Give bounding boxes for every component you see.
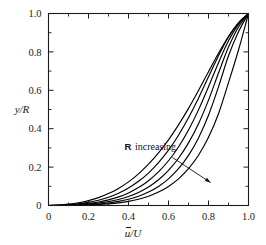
x-tick-label: 0.6 [162, 211, 175, 222]
velocity-profile-chart: 00.20.40.60.81.0 00.20.40.60.81.0 u/U y/… [0, 0, 266, 245]
curve-series-2 [49, 14, 249, 206]
x-tick-label: 0 [46, 211, 51, 222]
x-axis-tick-labels: 00.20.40.60.81.0 [46, 211, 255, 222]
curve-series-group [49, 14, 249, 206]
y-tick-label: 0.6 [28, 85, 41, 96]
x-tick-label: 0.2 [82, 211, 95, 222]
x-tick-label: 0.8 [202, 211, 215, 222]
y-tick-label: 0.8 [28, 47, 41, 58]
x-axis-label: u/U [125, 227, 143, 239]
figure-container: 00.20.40.60.81.0 00.20.40.60.81.0 u/U y/… [0, 0, 266, 245]
curve-series-1 [49, 14, 249, 206]
x-tick-label: 0.4 [122, 211, 136, 222]
y-tick-label: 0.2 [28, 162, 41, 173]
y-tick-label: 1.0 [28, 8, 41, 19]
curve-series-4 [49, 14, 249, 206]
curve-series-0 [49, 14, 249, 206]
y-tick-label: 0.4 [28, 123, 42, 134]
annotation-label-increasing: increasing [135, 141, 176, 152]
curve-series-5 [49, 14, 249, 206]
annotation-arrow-head [205, 178, 211, 183]
y-axis-tick-labels: 00.20.40.60.81.0 [28, 8, 42, 211]
x-tick-label: 1.0 [242, 211, 255, 222]
curve-series-3 [49, 14, 249, 206]
y-tick-label: 0 [36, 200, 41, 211]
annotation-symbol-r: R [125, 141, 132, 152]
y-axis-label: y/R [14, 103, 30, 115]
axes-frame-group [49, 14, 249, 206]
